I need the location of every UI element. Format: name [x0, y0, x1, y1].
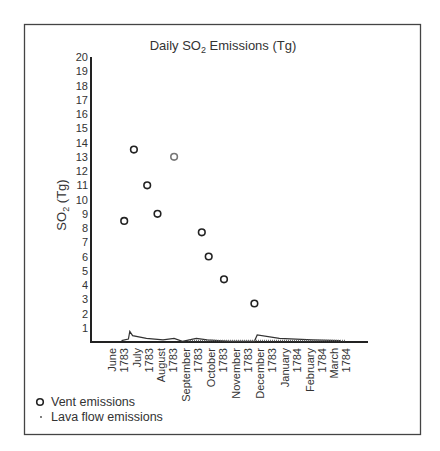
- y-tick-label: 13: [76, 151, 88, 163]
- y-tick-label: 11: [77, 179, 88, 191]
- svg-text:1783: 1783: [118, 348, 130, 372]
- svg-text:September: September: [180, 348, 192, 402]
- svg-text:1784: 1784: [291, 348, 303, 372]
- svg-text:1783: 1783: [143, 348, 155, 372]
- svg-text:August: August: [155, 348, 167, 382]
- y-tick-label: 1: [82, 322, 88, 334]
- chart-title: Daily SO2 Emissions (Tg): [150, 38, 297, 55]
- y-tick-label: 15: [76, 122, 88, 134]
- chart: Daily SO2 Emissions (Tg) SO2 (Tg) 123456…: [0, 0, 440, 451]
- y-tick-label: 6: [82, 251, 88, 263]
- y-tick-label: 17: [76, 94, 88, 106]
- svg-text:1783: 1783: [266, 348, 278, 372]
- y-tick-label: 5: [82, 265, 88, 277]
- legend-label-vent: Vent emissions: [51, 395, 135, 409]
- y-tick-label: 8: [82, 222, 88, 234]
- y-tick-label: 20: [76, 51, 88, 63]
- svg-text:1783: 1783: [167, 348, 179, 372]
- y-tick-label: 14: [76, 137, 88, 149]
- y-tick-label: 10: [76, 194, 88, 206]
- svg-text:June: June: [106, 348, 118, 372]
- svg-text:1783: 1783: [242, 348, 254, 372]
- legend-item-lava: Lava flow emissions: [40, 410, 163, 424]
- svg-text:1783: 1783: [217, 348, 229, 372]
- svg-text:March: March: [328, 348, 340, 379]
- x-tick-label: June1783: [106, 348, 130, 372]
- y-tick-label: 19: [76, 65, 88, 77]
- y-tick-label: 12: [76, 165, 88, 177]
- dot-icon: [40, 416, 42, 418]
- y-tick-label: 3: [82, 293, 88, 305]
- y-tick-label: 16: [76, 108, 88, 120]
- legend-item-vent: Vent emissions: [37, 395, 135, 409]
- y-tick-label: 9: [82, 208, 88, 220]
- y-axis-label: SO2 (Tg): [54, 179, 71, 230]
- svg-text:1783: 1783: [192, 348, 204, 372]
- svg-text:February: February: [304, 348, 316, 393]
- svg-text:November: November: [230, 348, 242, 399]
- y-tick-label: 7: [82, 236, 88, 248]
- svg-text:1784: 1784: [340, 348, 352, 372]
- svg-text:January: January: [279, 348, 291, 388]
- y-tick-label: 2: [82, 308, 88, 320]
- svg-text:July: July: [131, 348, 143, 368]
- svg-text:1784: 1784: [316, 348, 328, 372]
- y-tick-label: 4: [82, 279, 88, 291]
- y-tick-label: 18: [76, 80, 88, 92]
- svg-text:October: October: [205, 348, 217, 387]
- svg-text:December: December: [254, 348, 266, 399]
- legend-label-lava: Lava flow emissions: [51, 410, 163, 424]
